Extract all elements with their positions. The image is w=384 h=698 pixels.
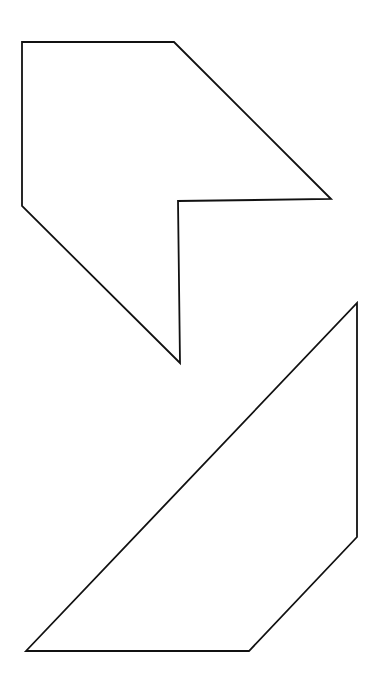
upper-notched-polygon [22,42,331,363]
diagram-canvas [0,0,384,698]
lower-trapezoid [26,303,357,651]
